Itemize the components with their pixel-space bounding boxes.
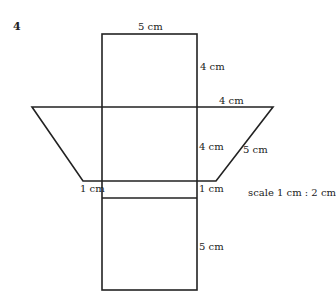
label-trap-top-right: 4 cm <box>219 96 244 106</box>
label-top-height: 4 cm <box>200 62 225 72</box>
label-middle-height: 4 cm <box>199 142 224 152</box>
label-top-width: 5 cm <box>138 22 163 32</box>
net-diagram: 4 5 cm 4 cm 4 cm 4 cm 5 cm 1 cm 1 cm sca… <box>0 0 336 303</box>
question-number: 4 <box>13 21 21 32</box>
label-right-strip: 1 cm <box>199 184 224 194</box>
label-slant: 5 cm <box>243 145 268 155</box>
label-bottom-height: 5 cm <box>199 242 224 252</box>
label-left-strip: 1 cm <box>80 184 105 194</box>
trapezoid <box>32 107 273 181</box>
central-rectangle <box>102 34 197 290</box>
scale-text: scale 1 cm : 2 cm <box>248 188 336 198</box>
net-drawing <box>0 0 336 303</box>
